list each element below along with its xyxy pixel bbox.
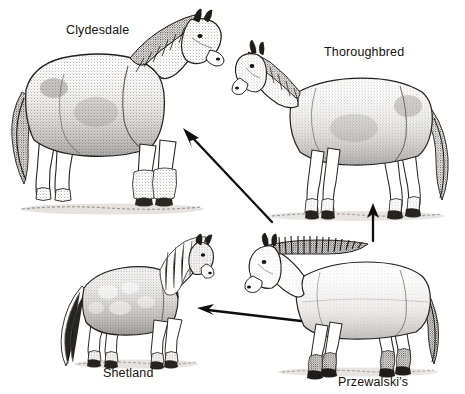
arrow-przewalski-to-thoroughbred bbox=[367, 203, 379, 241]
arrow-przewalski-to-clydesdale bbox=[183, 128, 272, 222]
horse-breeds-diagram: Clydesdale bbox=[0, 0, 465, 394]
descent-arrows bbox=[0, 0, 465, 394]
arrow-przewalski-to-shetland bbox=[197, 304, 301, 321]
